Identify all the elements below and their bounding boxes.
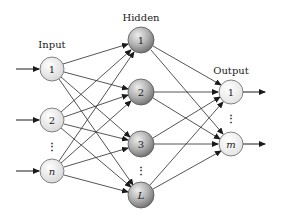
input-node-2: 2 (40, 108, 64, 132)
hidden-node-L: L (128, 182, 154, 208)
hidden-node-1-label: 1 (138, 35, 144, 46)
output-node-1-label: 1 (228, 87, 234, 98)
hidden-node-3: 3 (128, 131, 154, 157)
output-node-1: 1 (219, 80, 243, 104)
hidden-output-edges (150, 46, 223, 189)
output-layer-label: Output (213, 65, 249, 76)
output-arrows (243, 92, 265, 144)
hidden-node-1: 1 (128, 27, 154, 53)
output-ellipsis: ⋮ (226, 113, 236, 124)
output-node-m-label: m (226, 139, 235, 150)
output-node-m: m (219, 132, 243, 156)
input-node-n: n (40, 159, 64, 183)
input-layer-label: Input (38, 39, 65, 50)
input-hidden-edges (59, 44, 134, 192)
hidden-node-L-label: L (137, 190, 145, 201)
hidden-layer-label: Hidden (122, 12, 160, 23)
input-node-2-label: 2 (49, 115, 55, 126)
hidden-node-3-label: 3 (138, 139, 144, 150)
hidden-node-2: 2 (128, 79, 154, 105)
input-node-1: 1 (40, 57, 64, 81)
input-node-1-label: 1 (49, 64, 55, 75)
input-node-n-label: n (49, 166, 55, 177)
hidden-node-2-label: 2 (138, 87, 144, 98)
input-ellipsis: ⋮ (47, 141, 57, 152)
neural-network-diagram: Input Hidden Output (0, 0, 282, 222)
input-arrows (16, 69, 39, 171)
hidden-ellipsis: ⋮ (136, 165, 146, 176)
